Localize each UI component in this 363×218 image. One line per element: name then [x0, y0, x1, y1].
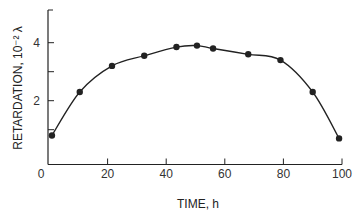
- data-point: [77, 89, 83, 95]
- tick-marks: [48, 43, 342, 165]
- data-point: [141, 53, 147, 59]
- x-tick-label: 60: [218, 167, 232, 181]
- data-point: [210, 45, 216, 51]
- x-axis-title: TIME, h: [177, 197, 219, 211]
- axes: [48, 10, 342, 165]
- data-point: [173, 44, 179, 50]
- data-point: [310, 89, 316, 95]
- data-point: [336, 135, 342, 141]
- y-tick-label: 2: [33, 94, 40, 108]
- fit-curve: [52, 45, 339, 138]
- x-tick-label: 100: [332, 167, 352, 181]
- x-tick-label: 40: [160, 167, 174, 181]
- x-tick-label: 0: [38, 167, 45, 181]
- tick-labels: 02040608010024: [33, 36, 352, 181]
- data-point: [245, 51, 251, 57]
- data-points: [49, 42, 343, 141]
- x-tick-label: 20: [101, 167, 115, 181]
- data-point: [277, 57, 283, 63]
- data-point: [194, 42, 200, 48]
- data-point: [109, 63, 115, 69]
- y-tick-label: 4: [33, 36, 40, 50]
- x-tick-label: 80: [277, 167, 291, 181]
- y-axis-title: RETARDATION, 10⁻² λ: [11, 26, 25, 150]
- data-point: [49, 132, 55, 138]
- retardation-vs-time-chart: 02040608010024 TIME, h RETARDATION, 10⁻²…: [0, 0, 363, 218]
